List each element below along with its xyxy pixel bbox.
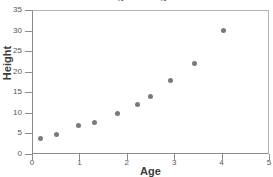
data-point	[148, 94, 153, 99]
data-point	[54, 132, 59, 137]
data-point	[192, 61, 197, 66]
y-axis-tick	[25, 154, 32, 155]
y-axis-tick-label: 5	[0, 129, 22, 137]
data-point	[38, 136, 43, 141]
y-axis-tick	[25, 92, 32, 93]
y-axis-tick	[25, 10, 32, 11]
y-axis-tick	[25, 72, 32, 73]
plot-area	[32, 10, 269, 154]
scatter-chart: Height vs Age 05101520253035 012345 Age …	[0, 0, 273, 177]
data-point	[135, 102, 140, 107]
y-axis-tick	[25, 133, 32, 134]
y-axis-tick	[25, 113, 32, 114]
chart-title: Height vs Age	[0, 0, 273, 1]
data-point	[168, 78, 173, 83]
x-axis-title: Age	[32, 165, 269, 177]
y-axis-tick-label: 35	[0, 6, 22, 14]
data-point	[221, 28, 226, 33]
data-points-layer	[33, 11, 268, 153]
y-axis-tick	[25, 31, 32, 32]
y-axis-tick-label: 10	[0, 109, 22, 117]
y-axis-tick-label: 0	[0, 150, 22, 158]
data-point	[92, 120, 97, 125]
data-point	[115, 111, 120, 116]
y-axis-title: Height	[1, 33, 13, 93]
y-axis-tick	[25, 51, 32, 52]
data-point	[76, 123, 81, 128]
